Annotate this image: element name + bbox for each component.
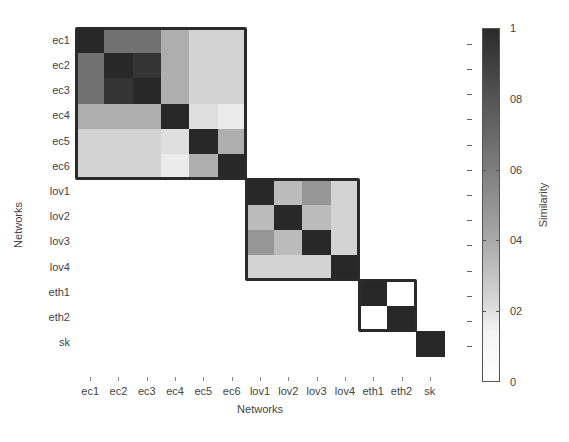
heatmap-cell [161, 104, 190, 130]
y-right-tick-mark [467, 145, 472, 146]
heatmap-cell [331, 53, 360, 79]
y-tick-label: ec6 [30, 160, 70, 172]
heatmap-cell [302, 104, 331, 130]
heatmap-cell [359, 28, 388, 54]
y-right-tick-mark [467, 220, 472, 221]
heatmap-cell [189, 28, 218, 54]
colorbar-tick-mark [496, 170, 500, 171]
heatmap-cell [359, 230, 388, 256]
heatmap-cell [161, 28, 190, 54]
colorbar [482, 28, 500, 382]
heatmap-cell [416, 179, 445, 205]
heatmap-cell [246, 280, 275, 306]
x-tick-label: lov1 [245, 385, 275, 397]
heatmap-cell [387, 255, 416, 281]
heatmap-cell [218, 154, 247, 180]
y-right-tick-mark [467, 271, 472, 272]
heatmap-cell [76, 179, 105, 205]
heatmap-cell [331, 255, 360, 281]
heatmap-cell [161, 306, 190, 332]
heatmap-cell [218, 104, 247, 130]
heatmap-cell [133, 331, 162, 357]
x-tick-label: lov2 [273, 385, 303, 397]
heatmap-cell [387, 28, 416, 54]
heatmap-cell [133, 306, 162, 332]
heatmap-cell [104, 28, 133, 54]
heatmap-cell [161, 255, 190, 281]
heatmap-cell [331, 280, 360, 306]
heatmap-cell [416, 154, 445, 180]
heatmap-cell [387, 306, 416, 332]
heatmap-cell [331, 331, 360, 357]
heatmap-cell [416, 28, 445, 54]
y-right-tick-mark [467, 170, 472, 171]
x-tick-label: ec3 [132, 385, 162, 397]
heatmap-cell [76, 53, 105, 79]
heatmap-cell [218, 28, 247, 54]
x-tick-mark [203, 377, 204, 381]
heatmap-cell [133, 255, 162, 281]
y-tick-label: ec4 [30, 109, 70, 121]
heatmap-cell [416, 205, 445, 231]
heatmap-cell [302, 78, 331, 104]
heatmap-cell [246, 104, 275, 130]
heatmap-cell [189, 154, 218, 180]
heatmap-cell [246, 179, 275, 205]
heatmap-cell [161, 230, 190, 256]
heatmap-cell [416, 230, 445, 256]
heatmap-cell [104, 280, 133, 306]
x-tick-label: ec4 [160, 385, 190, 397]
colorbar-tick-mark [482, 240, 486, 241]
heatmap-cell [387, 53, 416, 79]
x-tick-label: lov4 [330, 385, 360, 397]
heatmap-cell [246, 28, 275, 54]
heatmap-cell [218, 129, 247, 155]
colorbar-tick-label: 08 [510, 93, 522, 105]
heatmap-cell [189, 230, 218, 256]
heatmap-cell [274, 53, 303, 79]
heatmap-cell [246, 331, 275, 357]
y-right-tick-mark [467, 94, 472, 95]
x-tick-mark [430, 377, 431, 381]
heatmap-cell [274, 280, 303, 306]
colorbar-tick-mark [496, 240, 500, 241]
heatmap-cell [331, 230, 360, 256]
heatmap-cell [387, 179, 416, 205]
heatmap-cell [104, 154, 133, 180]
heatmap-cell [331, 78, 360, 104]
x-tick-label: eth1 [358, 385, 388, 397]
y-right-tick-mark [467, 296, 472, 297]
heatmap-cell [246, 53, 275, 79]
colorbar-tick-label: 1 [510, 22, 516, 34]
heatmap-cell [416, 280, 445, 306]
heatmap-cell [387, 230, 416, 256]
y-axis-title: Networks [12, 202, 24, 248]
heatmap-cell [76, 154, 105, 180]
y-tick-label: ec3 [30, 84, 70, 96]
x-tick-mark [118, 377, 119, 381]
y-right-tick-mark [467, 69, 472, 70]
heatmap-cell [387, 280, 416, 306]
heatmap-cell [359, 154, 388, 180]
y-right-tick-mark [467, 195, 472, 196]
heatmap-cell [161, 280, 190, 306]
heatmap-cell [416, 129, 445, 155]
y-tick-label: ec2 [30, 59, 70, 71]
x-tick-label: ec2 [103, 385, 133, 397]
heatmap-cell [133, 78, 162, 104]
heatmap-cell [274, 179, 303, 205]
x-axis-title: Networks [237, 403, 283, 415]
heatmap-cell [274, 154, 303, 180]
heatmap-cell [161, 205, 190, 231]
heatmap-cell [76, 331, 105, 357]
x-tick-mark [402, 377, 403, 381]
heatmap-cell [331, 129, 360, 155]
heatmap-cell [302, 255, 331, 281]
x-tick-mark [345, 377, 346, 381]
heatmap-cell [387, 129, 416, 155]
heatmap-cell [76, 230, 105, 256]
heatmap-cell [189, 331, 218, 357]
heatmap-cell [302, 205, 331, 231]
y-right-tick-mark [467, 119, 472, 120]
heatmap-cell [189, 78, 218, 104]
